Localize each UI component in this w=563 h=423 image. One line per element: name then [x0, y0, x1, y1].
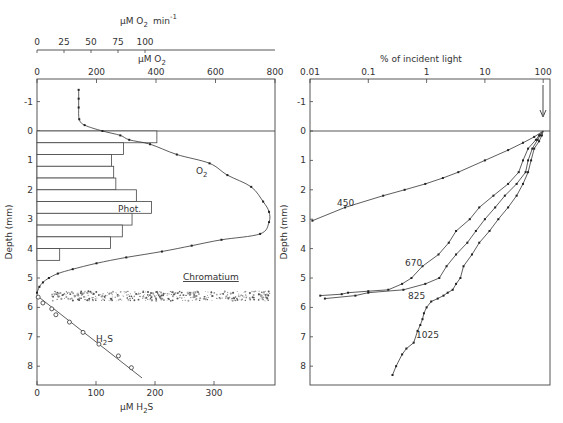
left-panel: 0255075100 µM O2min-1 µM O2 020040060080… [4, 13, 284, 415]
depth-tick-label: 3 [27, 214, 33, 224]
o2-tick-label: 600 [207, 67, 224, 77]
phot-bar [37, 155, 112, 167]
phot-bar [37, 143, 123, 155]
rate-axis-ticks: 0255075100 [34, 37, 154, 53]
o2-axis-label: µM O2 [138, 54, 166, 67]
depth-tick-label: 0 [27, 126, 33, 136]
label-450: 450 [337, 198, 354, 208]
rate-tick-label: 25 [58, 37, 69, 47]
o2-tick-label: 200 [88, 67, 105, 77]
rate-tick-label: 50 [85, 37, 97, 47]
depth-tick-label: 1 [300, 155, 306, 165]
phot-label: Phot. [118, 204, 141, 214]
depth-tick-label: 7 [300, 332, 306, 342]
figure: 0255075100 µM O2min-1 µM O2 020040060080… [0, 0, 563, 423]
label-825: 825 [408, 291, 425, 301]
o2-tick-label: 0 [34, 67, 40, 77]
h2s-tick-label: 100 [87, 388, 104, 398]
phot-bar [37, 213, 132, 225]
depth-tick-label: 6 [27, 302, 33, 312]
depth-tick-label: 7 [27, 332, 33, 342]
arrow-icon [540, 85, 546, 117]
phot-bar [37, 225, 122, 237]
phot-bar [37, 249, 60, 261]
chromatium-layer [51, 290, 270, 301]
depth-tick-label: 5 [27, 273, 33, 283]
left-ylabel: Depth (mm) [4, 205, 14, 260]
rate-tick-label: 0 [34, 37, 40, 47]
light-tick-label: 0.1 [361, 67, 375, 77]
rate-axis-label: µM O2min-1 [120, 13, 177, 29]
light-tick-label: 1 [424, 67, 430, 77]
depth-tick-label: -1 [297, 97, 306, 107]
phot-bar [37, 237, 110, 249]
label-1025: 1025 [416, 330, 439, 340]
light-tick-label: 100 [535, 67, 552, 77]
light-axis-label: % of incident light [380, 54, 462, 64]
rate-tick-label: 100 [136, 37, 153, 47]
h2s-tick-label: 0 [34, 388, 40, 398]
depth-tick-label: 2 [300, 185, 306, 195]
photosynthesis-bars [37, 131, 157, 260]
depth-tick-label: 6 [300, 302, 306, 312]
depth-tick-label: 5 [300, 273, 306, 283]
phot-bar [37, 190, 136, 202]
depth-tick-label: 1 [27, 155, 33, 165]
o2-tick-label: 400 [147, 67, 164, 77]
h2s-axis-label: µM H2S [120, 402, 154, 415]
right-depth-ticks: -1012345678 [297, 97, 313, 372]
o2-curve-label: O2 [196, 166, 208, 179]
light-curve-825 [325, 131, 543, 299]
depth-tick-label: 8 [27, 361, 33, 371]
depth-tick-label: 2 [27, 185, 33, 195]
o2-tick-label: 800 [266, 67, 283, 77]
depth-tick-label: 0 [300, 126, 306, 136]
right-ylabel: Depth (mm) [279, 205, 289, 260]
label-670: 670 [405, 258, 422, 268]
depth-tick-label: 8 [300, 361, 306, 371]
phot-bar [37, 178, 116, 190]
light-curve-670 [320, 131, 543, 296]
light-tick-label: 0.01 [300, 67, 320, 77]
chromatium-label: Chromatium [183, 272, 239, 282]
h2s-tick-label: 200 [146, 388, 163, 398]
right-panel: % of incident light 0.010.1110100 -10123… [279, 54, 552, 385]
phot-bar [37, 131, 157, 143]
rate-tick-label: 75 [112, 37, 123, 47]
h2s-axis-ticks: 0100200300 [34, 381, 223, 398]
o2-axis-ticks: 0200400600800 [34, 67, 284, 83]
light-tick-label: 10 [479, 67, 491, 77]
phot-bar [37, 166, 114, 178]
depth-tick-label: 3 [300, 214, 306, 224]
h2s-tick-label: 300 [205, 388, 222, 398]
depth-tick-label: -1 [24, 97, 33, 107]
depth-tick-label: 4 [300, 244, 306, 254]
depth-tick-label: 4 [27, 244, 33, 254]
light-axis-ticks: 0.010.1110100 [300, 67, 552, 83]
